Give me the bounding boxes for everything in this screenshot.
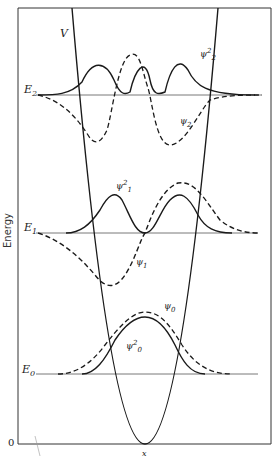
psi1-curve xyxy=(38,183,258,286)
psi0-squared-curve xyxy=(82,317,205,374)
frame xyxy=(18,8,271,444)
level-label-e2: E2 xyxy=(24,84,37,98)
x-axis-label: x xyxy=(142,450,147,458)
stray-mark xyxy=(35,436,40,456)
psi2-squared-curve xyxy=(38,64,255,95)
psi1-label: ψ1 xyxy=(136,258,148,270)
psi2-label: ψ2 xyxy=(180,117,192,129)
level-label-e1: E1 xyxy=(24,222,37,236)
psi2-curve xyxy=(38,54,262,145)
potential-label: V xyxy=(60,28,68,39)
psi0-curve xyxy=(58,312,232,374)
psi2-squared-label: ψ22 xyxy=(200,48,216,62)
y-axis-label: Energy xyxy=(2,213,13,248)
psi1-squared-label: ψ21 xyxy=(116,180,132,194)
level-label-e0: E0 xyxy=(22,364,35,378)
psi0-label: ψ0 xyxy=(164,302,176,314)
psi0-squared-label: ψ20 xyxy=(126,340,142,354)
potential-curve xyxy=(72,8,218,444)
origin-label: 0 xyxy=(8,438,14,448)
oscillator-diagram xyxy=(0,0,279,463)
